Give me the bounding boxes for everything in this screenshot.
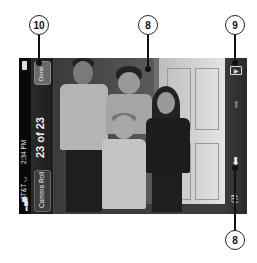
callout-9-dot	[232, 60, 238, 66]
wifi-icon: ◡	[20, 177, 27, 182]
callout-8-top: 8	[138, 15, 158, 35]
battery-icon	[22, 61, 27, 70]
toolbar: ▶ ⬆ ⬇ ⎘	[225, 58, 247, 214]
nav-title: 23 of 23	[34, 117, 46, 158]
callout-8-bottom-leader	[234, 165, 236, 231]
phone-screen: 2:34 PM ▂▄▆ AT&T ◡ Done 23 of 23 Camera …	[19, 58, 247, 214]
callout-9: 9	[225, 15, 245, 35]
nav-bar: Done 23 of 23 Camera Roll	[31, 58, 54, 214]
slideshow-button[interactable]: ▶	[230, 66, 242, 75]
callout-10-dot	[36, 60, 42, 66]
callout-8-bottom: 8	[225, 230, 245, 250]
up-arrow-icon[interactable]: ⬆	[232, 100, 240, 110]
callout-10: 10	[29, 15, 49, 35]
camera-roll-back-button[interactable]: Camera Roll	[34, 170, 51, 212]
trash-button[interactable]: ⎘	[231, 194, 241, 206]
status-carrier: AT&T	[20, 184, 27, 200]
back-button-label: Camera Roll	[38, 172, 45, 208]
status-bar: 2:34 PM ▂▄▆ AT&T ◡	[19, 58, 31, 214]
callout-8-top-leader	[147, 35, 149, 67]
slideshow-icon: ▶	[234, 67, 239, 74]
done-button-label: Done	[38, 67, 44, 81]
callout-9-leader	[234, 35, 236, 61]
callout-8-top-dot	[145, 66, 151, 72]
callout-10-leader	[38, 35, 40, 61]
callout-8-bottom-dot	[232, 165, 238, 171]
photo[interactable]	[54, 58, 225, 214]
status-time: 2:34 PM	[20, 140, 27, 164]
